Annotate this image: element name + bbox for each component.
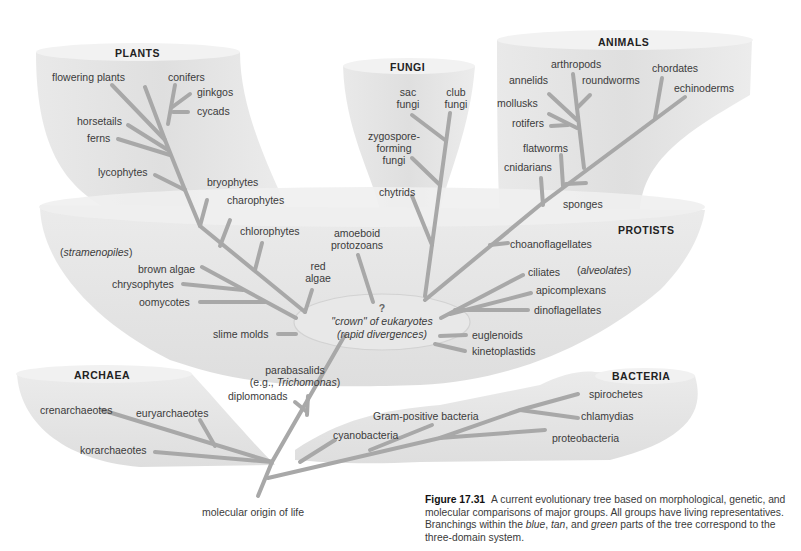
group-title-fungi: FUNGI — [390, 61, 425, 73]
label-sac-fungi: sacfungi — [388, 86, 428, 110]
label-euglenoids: euglenoids — [472, 329, 523, 341]
label-arthropods: arthropods — [551, 58, 601, 70]
group-title-animals: ANIMALS — [598, 36, 649, 48]
crown-of-eukaryotes-label: ? "crown" of eukaryotes (rapid divergenc… — [307, 302, 457, 341]
label-lycophytes: lycophytes — [98, 166, 148, 178]
label-cycads: cycads — [197, 105, 230, 117]
label-korarchaeotes: korarchaeotes — [80, 444, 147, 456]
label-brown-algae: brown algae — [138, 263, 195, 275]
group-title-archaea: ARCHAEA — [74, 369, 130, 381]
label-horsetails: horsetails — [77, 115, 122, 127]
label-zygospore-forming-fungi: zygospore-formingfungi — [358, 130, 430, 166]
label-echinoderms: echinoderms — [674, 82, 734, 94]
label-amoeboid-protozoans: amoeboidprotozoans — [321, 227, 393, 251]
label-chlorophytes: chlorophytes — [240, 225, 300, 237]
group-title-bacteria: BACTERIA — [612, 370, 670, 382]
label-gram-positive-bacteria: Gram-positive bacteria — [373, 410, 479, 422]
label-conifers: conifers — [168, 71, 205, 83]
label-dinoflagellates: dinoflagellates — [534, 304, 601, 316]
label-molecular-origin-of-life: molecular origin of life — [202, 506, 304, 518]
label-spirochetes: spirochetes — [589, 388, 643, 400]
label-diplomonads: diplomonads — [228, 390, 288, 402]
label-annelids: annelids — [509, 74, 548, 86]
label-ferns: ferns — [87, 132, 110, 144]
group-title-protists: PROTISTS — [618, 224, 675, 236]
label-euryarchaeotes: euryarchaeotes — [136, 407, 208, 419]
figure-caption: Figure 17.31A current evolutionary tree … — [425, 494, 795, 544]
label-chlamydias: chlamydias — [581, 410, 634, 422]
label-ciliates: ciliates — [528, 266, 560, 278]
label-bryophytes: bryophytes — [207, 176, 258, 188]
label-cyanobacteria: cyanobacteria — [333, 429, 398, 441]
label-red-algae: redalgae — [300, 260, 336, 284]
label-chordates: chordates — [652, 62, 698, 74]
group-title-plants: PLANTS — [115, 47, 160, 59]
label-kinetoplastids: kinetoplastids — [472, 345, 536, 357]
label-parabasalids: parabasalids(e.g., Trichomonas) — [240, 364, 350, 388]
label-alveolates: (alveolates) — [577, 264, 631, 276]
label-club-fungi: clubfungi — [436, 86, 476, 110]
label-stramenopiles: (stramenopiles) — [60, 246, 132, 258]
label-sponges: sponges — [563, 198, 603, 210]
label-slime-molds: slime molds — [213, 328, 268, 340]
label-flowering-plants: flowering plants — [52, 71, 125, 83]
label-rotifers: rotifers — [512, 117, 544, 129]
label-chrysophytes: chrysophytes — [112, 278, 174, 290]
label-flatworms: flatworms — [523, 142, 568, 154]
label-mollusks: mollusks — [497, 97, 538, 109]
label-cnidarians: cnidarians — [504, 161, 552, 173]
label-crenarchaeotes: crenarchaeotes — [40, 404, 112, 416]
label-roundworms: roundworms — [582, 74, 640, 86]
label-choanoflagellates: choanoflagellates — [510, 238, 592, 250]
label-apicomplexans: apicomplexans — [536, 284, 606, 296]
figure-number: Figure 17.31 — [425, 494, 485, 505]
label-proteobacteria: proteobacteria — [552, 432, 619, 444]
label-oomycotes: oomycotes — [139, 296, 190, 308]
label-chytrids: chytrids — [379, 186, 415, 198]
label-charophytes: charophytes — [227, 194, 284, 206]
label-ginkgos: ginkgos — [197, 86, 233, 98]
